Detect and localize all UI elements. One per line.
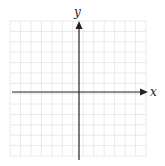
y-axis-arrow-icon bbox=[76, 21, 83, 29]
x-axis-arrow-icon bbox=[140, 89, 148, 96]
y-axis-label: y bbox=[73, 5, 81, 19]
grid-lines bbox=[10, 21, 146, 156]
coordinate-plane: x y bbox=[0, 0, 165, 166]
x-axis-label: x bbox=[150, 85, 157, 99]
